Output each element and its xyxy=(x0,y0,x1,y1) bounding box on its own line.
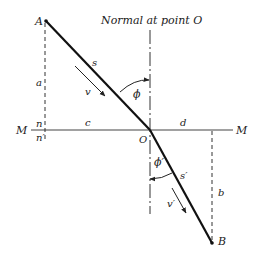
surface-label-right: M xyxy=(235,124,248,137)
angle-arc-phi-prime xyxy=(150,173,172,179)
point-o-label: O xyxy=(139,134,147,145)
label-d: d xyxy=(180,117,186,128)
diagram-svg: Normal at point O A O B M M a b c d n n′… xyxy=(0,0,259,260)
label-n-prime: n′ xyxy=(36,132,45,143)
label-phi-prime: ϕ′ xyxy=(154,156,164,169)
refraction-diagram: Normal at point O A O B M M a b c d n n′… xyxy=(0,0,259,260)
point-b-label: B xyxy=(217,235,226,248)
label-v-prime: v′ xyxy=(167,198,176,209)
label-n: n xyxy=(36,118,42,129)
incident-ray xyxy=(46,21,150,130)
label-b: b xyxy=(218,187,224,198)
label-s-prime: s′ xyxy=(180,170,188,181)
point-a-label: A xyxy=(34,15,43,28)
label-s: s xyxy=(92,57,97,68)
point-b-dot xyxy=(210,241,214,245)
label-c: c xyxy=(85,117,91,128)
surface-label-left: M xyxy=(15,124,28,137)
point-a-dot xyxy=(44,19,48,23)
label-phi: ϕ xyxy=(133,88,141,101)
refracted-ray xyxy=(150,130,212,243)
label-a: a xyxy=(36,77,42,88)
label-v: v xyxy=(85,86,91,97)
normal-label: Normal at point O xyxy=(100,14,202,27)
